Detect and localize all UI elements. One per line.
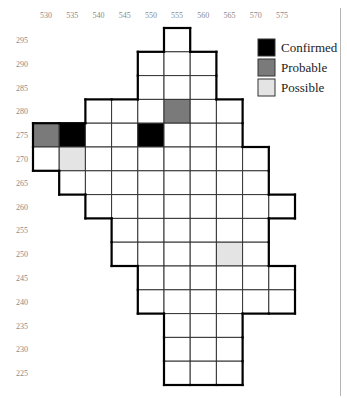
legend-swatch-probable <box>258 59 275 76</box>
grid-cell <box>216 195 242 219</box>
grid-cell <box>164 242 190 266</box>
grid-cell <box>164 28 190 52</box>
grid-cell <box>164 76 190 100</box>
x-axis-label: 575 <box>276 11 288 20</box>
y-axis-label: 250 <box>16 250 28 259</box>
legend-label-confirmed: Confirmed <box>281 40 338 55</box>
grid-cell <box>216 361 242 385</box>
y-axis-label: 260 <box>16 203 28 212</box>
grid-cell <box>243 266 269 290</box>
grid-cell-probable <box>164 99 190 123</box>
grid-cell <box>216 123 242 147</box>
y-axis-label: 245 <box>16 274 28 283</box>
x-axis-label: 545 <box>119 11 131 20</box>
legend-label-possible: Possible <box>281 80 325 95</box>
grid-cell <box>138 266 164 290</box>
grid-cell <box>190 171 216 195</box>
grid-cell <box>138 218 164 242</box>
grid-cell <box>216 218 242 242</box>
grid-cell <box>85 195 111 219</box>
legend-swatch-confirmed <box>258 39 275 56</box>
grid-cell <box>190 123 216 147</box>
grid-cell <box>112 218 138 242</box>
distribution-grid-map: 530535540545550555560565570575 295290285… <box>0 0 347 398</box>
grid-cell <box>190 242 216 266</box>
y-axis-labels: 2952902852802752702652602552502452402352… <box>16 36 28 378</box>
grid-cell <box>216 314 242 338</box>
grid-cell <box>112 171 138 195</box>
grid-cell <box>85 171 111 195</box>
x-axis-labels: 530535540545550555560565570575 <box>40 11 288 20</box>
grid-cell <box>112 195 138 219</box>
x-axis-label: 535 <box>66 11 78 20</box>
grid-cell <box>59 171 85 195</box>
y-axis-label: 255 <box>16 226 28 235</box>
grid-cell <box>190 337 216 361</box>
grid-cell <box>190 76 216 100</box>
grid-cell-probable <box>33 123 59 147</box>
grid-cell <box>164 52 190 76</box>
y-axis-label: 265 <box>16 179 28 188</box>
grid-cell <box>216 171 242 195</box>
grid-cell-confirmed <box>138 123 164 147</box>
grid-cell <box>269 266 295 290</box>
y-axis-label: 280 <box>16 107 28 116</box>
grid-cell <box>164 123 190 147</box>
grid-cell <box>138 242 164 266</box>
grid-cell <box>190 314 216 338</box>
legend-label-probable: Probable <box>281 60 327 75</box>
x-axis-label: 530 <box>40 11 52 20</box>
grid-cell <box>138 147 164 171</box>
grid-cell <box>112 99 138 123</box>
grid-cell <box>85 123 111 147</box>
grid-cell <box>190 52 216 76</box>
grid-cell <box>190 266 216 290</box>
grid-cell <box>85 99 111 123</box>
grid-cell <box>112 123 138 147</box>
grid-cell <box>216 290 242 314</box>
y-axis-label: 270 <box>16 155 28 164</box>
grid-cell <box>138 290 164 314</box>
grid-cell <box>138 52 164 76</box>
grid-cell <box>190 290 216 314</box>
y-axis-label: 290 <box>16 60 28 69</box>
grid-cell <box>243 147 269 171</box>
grid-cell <box>164 337 190 361</box>
grid-cell <box>216 99 242 123</box>
grid-cell <box>33 147 59 171</box>
y-axis-label: 295 <box>16 36 28 45</box>
grid-cell <box>190 218 216 242</box>
grid-cell <box>216 266 242 290</box>
grid-cell <box>190 195 216 219</box>
y-axis-label: 230 <box>16 345 28 354</box>
grid-cell <box>112 242 138 266</box>
grid-cell-possible <box>59 147 85 171</box>
x-axis-label: 555 <box>171 11 183 20</box>
grid-cell <box>243 242 269 266</box>
grid-cell <box>269 290 295 314</box>
grid-cell <box>190 147 216 171</box>
grid-cell <box>164 290 190 314</box>
x-axis-label: 560 <box>197 11 209 20</box>
grid-cell <box>190 99 216 123</box>
y-axis-label: 225 <box>16 369 28 378</box>
grid-cell <box>138 99 164 123</box>
grid-cell <box>216 147 242 171</box>
grid-cell <box>243 195 269 219</box>
grid-cell <box>243 290 269 314</box>
grid-cell-confirmed <box>59 123 85 147</box>
grid-cell <box>164 195 190 219</box>
y-axis-label: 240 <box>16 298 28 307</box>
grid-cell <box>164 218 190 242</box>
x-axis-label: 550 <box>145 11 157 20</box>
grid-cell <box>243 171 269 195</box>
x-axis-label: 570 <box>250 11 262 20</box>
grid-cell <box>164 266 190 290</box>
right-divider <box>340 8 341 396</box>
x-axis-label: 565 <box>224 11 236 20</box>
grid-cell <box>85 147 111 171</box>
grid-cell <box>138 171 164 195</box>
grid-cell <box>190 361 216 385</box>
grid-cell <box>138 195 164 219</box>
y-axis-label: 275 <box>16 131 28 140</box>
